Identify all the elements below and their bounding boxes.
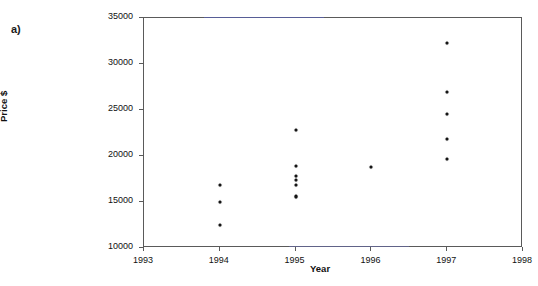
data-point: [446, 112, 449, 115]
y-tick-label: 10000: [93, 241, 133, 251]
data-point: [218, 224, 221, 227]
x-tick-label: 1995: [272, 255, 318, 265]
data-point: [294, 179, 297, 182]
x-tick-mark: [370, 247, 371, 251]
bottom-border-artifact: [289, 246, 409, 247]
x-tick-label: 1996: [347, 255, 393, 265]
y-tick-label: 30000: [93, 57, 133, 67]
data-point: [294, 196, 297, 199]
y-tick-label: 20000: [93, 149, 133, 159]
x-tick-mark: [295, 247, 296, 251]
x-tick-label: 1994: [196, 255, 242, 265]
scatter-points-layer: [144, 18, 521, 246]
x-tick-label: 1997: [423, 255, 469, 265]
y-tick-label: 25000: [93, 103, 133, 113]
y-axis-label: Price $: [0, 91, 9, 122]
x-tick-mark: [143, 247, 144, 251]
data-point: [294, 129, 297, 132]
data-point: [294, 165, 297, 168]
x-tick-label: 1998: [499, 255, 538, 265]
data-point: [446, 41, 449, 44]
plot-area: [143, 17, 522, 247]
x-tick-mark: [522, 247, 523, 251]
x-tick-mark: [446, 247, 447, 251]
data-point: [446, 157, 449, 160]
data-point: [446, 91, 449, 94]
x-tick-label: 1993: [120, 255, 166, 265]
panel-label: a): [11, 23, 21, 35]
x-tick-mark: [219, 247, 220, 251]
data-point: [446, 138, 449, 141]
data-point: [294, 175, 297, 178]
data-point: [370, 166, 373, 169]
data-point: [294, 184, 297, 187]
y-tick-label: 35000: [93, 11, 133, 21]
data-point: [218, 183, 221, 186]
figure-panel: a) Price $ Year 100001500020000250003000…: [0, 0, 538, 286]
y-tick-label: 15000: [93, 195, 133, 205]
data-point: [218, 201, 221, 204]
